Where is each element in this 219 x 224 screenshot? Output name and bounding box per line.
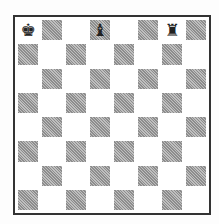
square-e4[interactable]	[112, 115, 136, 139]
square-a7[interactable]	[16, 42, 40, 66]
square-d6[interactable]	[88, 67, 112, 91]
square-h6[interactable]	[184, 67, 208, 91]
square-e8[interactable]	[112, 18, 136, 42]
square-a1[interactable]	[16, 188, 40, 212]
square-c6[interactable]	[64, 67, 88, 91]
square-f8[interactable]	[136, 18, 160, 42]
square-c7[interactable]	[64, 42, 88, 66]
square-a6[interactable]	[16, 67, 40, 91]
square-e5[interactable]	[112, 91, 136, 115]
square-c8[interactable]	[64, 18, 88, 42]
square-b7[interactable]	[40, 42, 64, 66]
chess-board: ♚♝♜	[13, 15, 211, 215]
square-d7[interactable]	[88, 42, 112, 66]
square-d1[interactable]	[88, 188, 112, 212]
square-h3[interactable]	[184, 139, 208, 163]
square-b2[interactable]	[40, 164, 64, 188]
square-f3[interactable]	[136, 139, 160, 163]
square-e1[interactable]	[112, 188, 136, 212]
square-d8[interactable]: ♝	[88, 18, 112, 42]
square-b8[interactable]	[40, 18, 64, 42]
square-g2[interactable]	[160, 164, 184, 188]
square-a4[interactable]	[16, 115, 40, 139]
square-c5[interactable]	[64, 91, 88, 115]
square-f5[interactable]	[136, 91, 160, 115]
black-king-icon[interactable]: ♚	[20, 22, 35, 39]
square-h5[interactable]	[184, 91, 208, 115]
square-g1[interactable]	[160, 188, 184, 212]
square-f6[interactable]	[136, 67, 160, 91]
square-a5[interactable]	[16, 91, 40, 115]
square-d3[interactable]	[88, 139, 112, 163]
square-f4[interactable]	[136, 115, 160, 139]
square-e2[interactable]	[112, 164, 136, 188]
square-b1[interactable]	[40, 188, 64, 212]
square-c1[interactable]	[64, 188, 88, 212]
square-e3[interactable]	[112, 139, 136, 163]
square-c3[interactable]	[64, 139, 88, 163]
square-c4[interactable]	[64, 115, 88, 139]
square-g7[interactable]	[160, 42, 184, 66]
square-b5[interactable]	[40, 91, 64, 115]
black-rook-icon[interactable]: ♜	[164, 22, 179, 39]
square-f7[interactable]	[136, 42, 160, 66]
black-bishop-icon[interactable]: ♝	[92, 22, 107, 39]
square-f2[interactable]	[136, 164, 160, 188]
square-h2[interactable]	[184, 164, 208, 188]
square-g5[interactable]	[160, 91, 184, 115]
square-h1[interactable]	[184, 188, 208, 212]
square-g3[interactable]	[160, 139, 184, 163]
square-h8[interactable]	[184, 18, 208, 42]
square-e6[interactable]	[112, 67, 136, 91]
square-b3[interactable]	[40, 139, 64, 163]
square-g4[interactable]	[160, 115, 184, 139]
square-f1[interactable]	[136, 188, 160, 212]
square-a2[interactable]	[16, 164, 40, 188]
square-g8[interactable]: ♜	[160, 18, 184, 42]
square-b4[interactable]	[40, 115, 64, 139]
square-h4[interactable]	[184, 115, 208, 139]
square-c2[interactable]	[64, 164, 88, 188]
square-e7[interactable]	[112, 42, 136, 66]
square-a3[interactable]	[16, 139, 40, 163]
square-d5[interactable]	[88, 91, 112, 115]
square-b6[interactable]	[40, 67, 64, 91]
square-a8[interactable]: ♚	[16, 18, 40, 42]
square-d2[interactable]	[88, 164, 112, 188]
square-g6[interactable]	[160, 67, 184, 91]
square-d4[interactable]	[88, 115, 112, 139]
square-h7[interactable]	[184, 42, 208, 66]
